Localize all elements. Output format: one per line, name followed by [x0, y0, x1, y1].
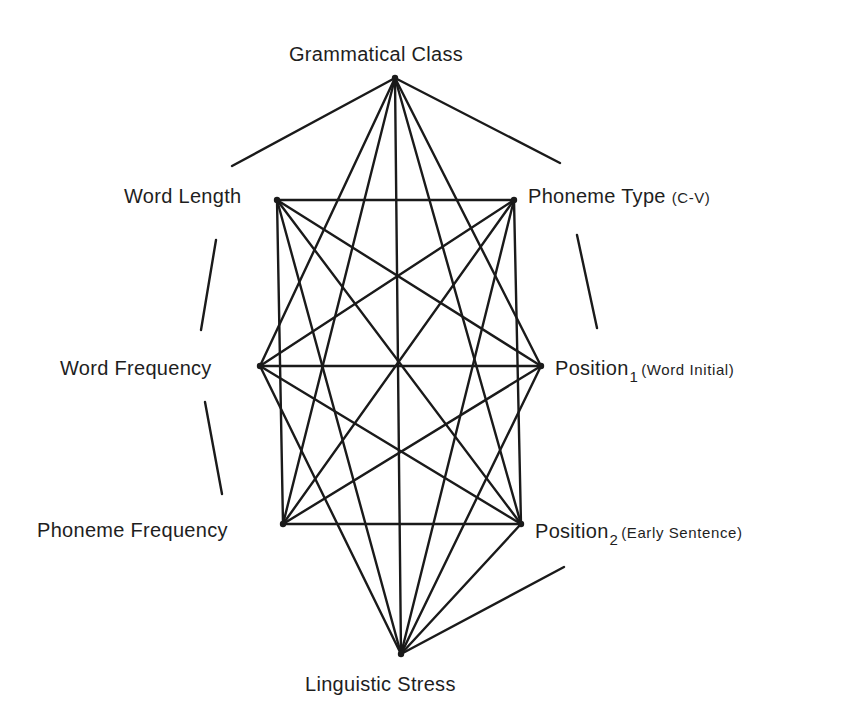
- node-dot-ls: [398, 651, 404, 657]
- edge-gc-p2: [395, 78, 521, 524]
- phoneme-type-qualifier: (C-V): [672, 189, 711, 206]
- position-2-subscript: 2: [610, 531, 619, 548]
- node-label-position-2: Position2(Early Sentence): [535, 521, 743, 541]
- node-label-word-length: Word Length: [124, 186, 241, 206]
- position-1-subscript: 1: [630, 368, 639, 385]
- node-dot-wl: [274, 197, 280, 203]
- node-label-phoneme-frequency: Phoneme Frequency: [37, 520, 228, 540]
- node-dot-p1: [538, 363, 544, 369]
- edge-gc-pf: [283, 78, 395, 524]
- position-2-qualifier: (Early Sentence): [621, 524, 742, 541]
- position-1-qualifier: (Word Initial): [641, 361, 734, 378]
- graph-edges: [260, 78, 541, 654]
- node-label-linguistic-stress: Linguistic Stress: [305, 674, 456, 694]
- node-label-word-frequency: Word Frequency: [60, 358, 212, 378]
- perimeter-stroke: [201, 240, 216, 330]
- node-dot-pt: [511, 197, 517, 203]
- node-dot-p2: [518, 521, 524, 527]
- node-dot-gc: [392, 75, 398, 81]
- perimeter-stroke: [577, 235, 597, 328]
- node-label-position-1: Position1(Word Initial): [555, 358, 734, 378]
- node-label-phoneme-type: Phoneme Type (C-V): [528, 186, 710, 206]
- edge-wl-ls: [277, 200, 401, 654]
- perimeter-stroke: [395, 78, 560, 163]
- edge-wl-pf: [277, 200, 283, 524]
- edge-pt-ls: [401, 200, 514, 654]
- node-dot-wf: [257, 363, 263, 369]
- perimeter-stroke: [205, 402, 222, 494]
- edge-pt-p2: [514, 200, 521, 524]
- perimeter-stroke: [232, 78, 395, 166]
- edge-p2-ls: [401, 524, 521, 654]
- edge-gc-p1: [395, 78, 541, 366]
- node-dot-pf: [280, 521, 286, 527]
- node-label-grammatical-class: Grammatical Class: [289, 44, 463, 64]
- perimeter-stroke: [401, 567, 564, 654]
